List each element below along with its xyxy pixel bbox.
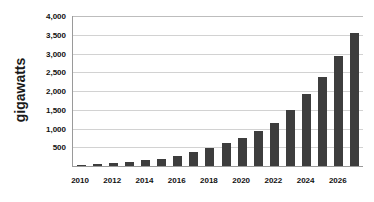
bar-slot bbox=[347, 16, 363, 166]
x-axis-tick: 2014 bbox=[136, 176, 154, 185]
y-axis-tick: 2,000 bbox=[46, 87, 66, 96]
x-axis-tick-slot: 2020 bbox=[233, 172, 249, 194]
x-axis-tick: 2016 bbox=[168, 176, 186, 185]
bar-slot bbox=[218, 16, 234, 166]
x-axis-tick: 2018 bbox=[200, 176, 218, 185]
x-axis-tick-slot: 2016 bbox=[169, 172, 185, 194]
bar[interactable] bbox=[125, 162, 134, 166]
x-axis-tick-slot: 2010 bbox=[72, 172, 88, 194]
bar-slot bbox=[89, 16, 105, 166]
x-axis-tick-slot bbox=[153, 172, 169, 194]
y-axis-tick: 1,500 bbox=[46, 105, 66, 114]
bar[interactable] bbox=[141, 160, 150, 166]
x-axis-tick-labels: 201020122014201620182020202220242026 bbox=[72, 172, 362, 194]
bar-slot bbox=[137, 16, 153, 166]
bar-slot bbox=[121, 16, 137, 166]
x-axis-tick-slot: 2024 bbox=[298, 172, 314, 194]
x-axis-tick: 2022 bbox=[264, 176, 282, 185]
y-axis-tick: 4,000 bbox=[46, 12, 66, 21]
bar[interactable] bbox=[222, 143, 231, 166]
x-axis-tick-slot bbox=[281, 172, 297, 194]
bar[interactable] bbox=[93, 164, 102, 166]
bar-slot bbox=[282, 16, 298, 166]
x-axis-tick: 2020 bbox=[232, 176, 250, 185]
x-axis-tick-slot bbox=[249, 172, 265, 194]
x-axis-tick: 2026 bbox=[329, 176, 347, 185]
bar[interactable] bbox=[77, 165, 86, 166]
x-axis-tick: 2010 bbox=[71, 176, 89, 185]
bar-slot bbox=[331, 16, 347, 166]
y-axis-tick: 1,000 bbox=[46, 124, 66, 133]
bar-slot bbox=[315, 16, 331, 166]
y-axis-tick-labels: 4,0003,5003,0002,5002,0001,5001,000500 bbox=[28, 16, 70, 166]
y-axis-tick: 500 bbox=[53, 143, 66, 152]
bar[interactable] bbox=[205, 148, 214, 166]
bar[interactable] bbox=[189, 152, 198, 166]
bar[interactable] bbox=[270, 123, 279, 166]
bar-slot bbox=[250, 16, 266, 166]
bars-series bbox=[73, 16, 363, 166]
x-axis-tick-slot bbox=[346, 172, 362, 194]
bar-slot bbox=[186, 16, 202, 166]
x-axis-tick-slot bbox=[185, 172, 201, 194]
bar[interactable] bbox=[173, 156, 182, 166]
bar[interactable] bbox=[109, 163, 118, 166]
bar-slot bbox=[299, 16, 315, 166]
x-axis-tick-slot: 2026 bbox=[330, 172, 346, 194]
x-axis-tick: 2012 bbox=[103, 176, 121, 185]
bar[interactable] bbox=[334, 56, 343, 166]
bar[interactable] bbox=[157, 159, 166, 166]
bar[interactable] bbox=[286, 110, 295, 166]
x-axis-tick-slot bbox=[88, 172, 104, 194]
y-axis-tick: 3,000 bbox=[46, 49, 66, 58]
x-axis-tick-slot bbox=[120, 172, 136, 194]
y-axis-tick: 3,500 bbox=[46, 30, 66, 39]
bar-slot bbox=[105, 16, 121, 166]
bar[interactable] bbox=[254, 131, 263, 166]
bar-slot bbox=[154, 16, 170, 166]
bar-slot bbox=[234, 16, 250, 166]
x-axis-tick-slot bbox=[217, 172, 233, 194]
x-axis-tick-slot: 2012 bbox=[104, 172, 120, 194]
bar-slot bbox=[73, 16, 89, 166]
bar[interactable] bbox=[318, 77, 327, 166]
plot-area bbox=[72, 16, 363, 167]
bar-chart: gigawatts 4,0003,5003,0002,5002,0001,500… bbox=[0, 0, 374, 202]
bar-slot bbox=[170, 16, 186, 166]
bar[interactable] bbox=[302, 94, 311, 166]
bar[interactable] bbox=[350, 33, 359, 167]
bar-slot bbox=[202, 16, 218, 166]
x-axis-tick-slot: 2014 bbox=[136, 172, 152, 194]
x-axis-tick-slot: 2022 bbox=[265, 172, 281, 194]
x-axis-tick-slot: 2018 bbox=[201, 172, 217, 194]
y-axis-tick: 2,500 bbox=[46, 68, 66, 77]
x-axis-tick-slot bbox=[314, 172, 330, 194]
x-axis-tick: 2024 bbox=[297, 176, 315, 185]
bar[interactable] bbox=[238, 138, 247, 166]
y-axis-title-label: gigawatts bbox=[12, 58, 28, 123]
bar-slot bbox=[266, 16, 282, 166]
